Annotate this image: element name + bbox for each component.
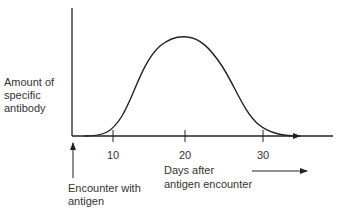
encounter-annotation-line1: Encounter with xyxy=(68,182,141,194)
x-tick-label-20: 20 xyxy=(179,149,191,161)
x-axis-label-line1: Days after xyxy=(164,164,214,176)
y-axis-label-line2: specific xyxy=(4,89,41,101)
x-tick-label-10: 10 xyxy=(107,149,119,161)
y-axis-label-line3: antibody xyxy=(4,102,46,114)
antibody-response-chart: 10 20 30 Amount of specific antibody Enc… xyxy=(0,0,345,214)
antibody-curve xyxy=(84,37,300,136)
x-axis-label-line2: antigen encounter xyxy=(164,178,252,190)
x-tick-label-30: 30 xyxy=(257,149,269,161)
encounter-annotation-line2: antigen xyxy=(68,195,104,207)
y-axis-label-line1: Amount of xyxy=(4,76,55,88)
